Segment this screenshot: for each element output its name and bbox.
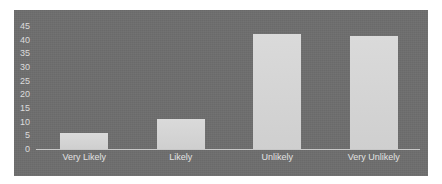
bar-unlikely: [253, 34, 301, 149]
bar-very-likely: [60, 133, 108, 149]
x-tick-label: Unlikely: [229, 152, 325, 163]
y-tick-label: 25: [14, 76, 30, 86]
x-tick-label: Likely: [133, 152, 229, 163]
y-tick-label: 10: [14, 117, 30, 127]
y-tick-label: 0: [14, 144, 30, 154]
bar-likely: [157, 119, 205, 149]
y-tick-label: 35: [14, 48, 30, 58]
chart-panel: 051015202530354045 Very LikelyLikelyUnli…: [14, 10, 428, 176]
bar-very-unlikely: [350, 36, 398, 149]
y-tick-label: 5: [14, 130, 30, 140]
y-tick-label: 45: [14, 21, 30, 31]
x-tick-label: Very Likely: [36, 152, 132, 163]
y-tick-label: 15: [14, 103, 30, 113]
x-axis-line: [36, 149, 420, 150]
y-tick-label: 40: [14, 35, 30, 45]
y-tick-label: 30: [14, 62, 30, 72]
y-tick-label: 20: [14, 89, 30, 99]
x-tick-label: Very Unlikely: [326, 152, 422, 163]
